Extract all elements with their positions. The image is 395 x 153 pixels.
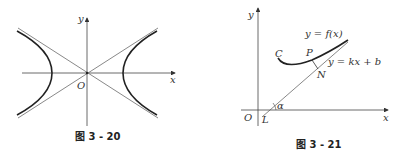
point-l-label: L <box>261 114 269 125</box>
origin-label: O <box>77 80 85 91</box>
caption-3-20: 图 3 - 20 <box>75 131 121 142</box>
line-equation: y = kx + b <box>327 56 381 67</box>
point-p-label: P <box>305 47 313 58</box>
origin-label: O <box>244 112 252 123</box>
curve-c-label: C <box>275 48 283 59</box>
figure-3-21: y x O L α C P N y = f(x) y = kx + b 图 3 … <box>241 8 389 150</box>
x-label: x <box>170 74 176 85</box>
segment-pn <box>312 60 318 69</box>
angle-label: α <box>277 100 284 111</box>
point-n-label: N <box>316 69 327 80</box>
caption-3-21: 图 3 - 21 <box>296 139 342 150</box>
x-label: x <box>383 112 389 123</box>
y-label: y <box>247 9 254 20</box>
figure-3-20: y x O 图 3 - 20 <box>17 13 176 142</box>
y-label: y <box>77 13 84 24</box>
figures-canvas: y x O 图 3 - 20 y x O L α C P N y = f(x) … <box>0 0 395 153</box>
curve-equation: y = f(x) <box>304 28 343 39</box>
